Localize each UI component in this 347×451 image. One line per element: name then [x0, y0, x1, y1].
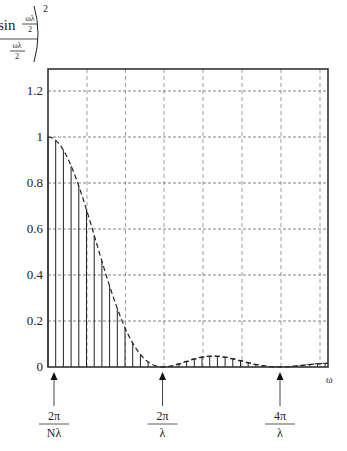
plot-frame — [48, 69, 328, 367]
y-tick-label: 1.2 — [27, 83, 43, 98]
envelope-curve — [48, 137, 328, 367]
y-tick-label: 0.2 — [27, 313, 43, 328]
y-tick-label: 0.6 — [27, 221, 44, 236]
annotation-denominator: λ — [277, 426, 283, 440]
annotation-denominator: Nλ — [47, 426, 62, 440]
annotation-numerator: 4π — [274, 409, 286, 423]
stems — [48, 137, 328, 367]
y-tick-label: 0 — [37, 359, 44, 374]
arrow-up-icon — [159, 372, 166, 380]
x-axis-label: ω — [326, 374, 333, 385]
annotation-numerator: 2π — [48, 409, 60, 423]
grid — [48, 69, 328, 367]
y-tick-label: 0.4 — [27, 267, 44, 282]
arrow-up-icon — [277, 372, 284, 380]
x-annotation: 2πNλ — [39, 372, 69, 440]
annotation-denominator: λ — [160, 426, 166, 440]
y-tick-label: 0.8 — [27, 175, 43, 190]
y-axis-labels: 00.20.40.60.811.2 — [27, 83, 44, 374]
x-annotation: 2πλ — [148, 372, 178, 440]
annotation-numerator: 2π — [156, 409, 168, 423]
x-annotations: 2πNλ2πλ4πλ — [39, 372, 295, 440]
y-tick-label: 1 — [37, 129, 44, 144]
arrow-up-icon — [51, 372, 58, 380]
chart: 00.20.40.60.811.2 ω 2πNλ2πλ4πλ — [0, 0, 347, 451]
x-annotation: 4πλ — [265, 372, 295, 440]
